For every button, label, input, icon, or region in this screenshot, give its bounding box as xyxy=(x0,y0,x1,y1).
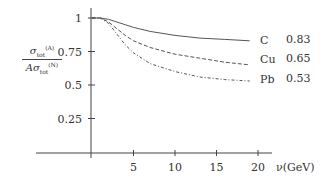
y-tick-label: 0.75 xyxy=(58,46,83,59)
series-name-c: C xyxy=(260,34,268,47)
x-axis-label: ν(GeV) xyxy=(276,161,315,174)
series-line-cu xyxy=(92,18,250,65)
series-name-cu: Cu xyxy=(260,53,276,66)
series-name-pb: Pb xyxy=(260,73,274,86)
y-tick-label: 1 xyxy=(75,12,82,25)
series-value-pb: 0.53 xyxy=(286,72,311,85)
y-tick-label: 0.5 xyxy=(65,79,83,92)
x-tick-label: 10 xyxy=(168,161,182,174)
x-tick-label: 5 xyxy=(130,161,137,174)
series-value-c: 0.83 xyxy=(286,33,311,46)
series-value-cu: 0.65 xyxy=(286,52,311,65)
x-tick-label: 20 xyxy=(251,161,265,174)
series-line-c xyxy=(92,18,250,41)
chart-canvas: 0.250.50.7515101520ν(GeV)C0.83Cu0.65Pb0.… xyxy=(0,0,324,189)
y-tick-label: 0.25 xyxy=(58,113,83,126)
x-tick-label: 15 xyxy=(210,161,224,174)
